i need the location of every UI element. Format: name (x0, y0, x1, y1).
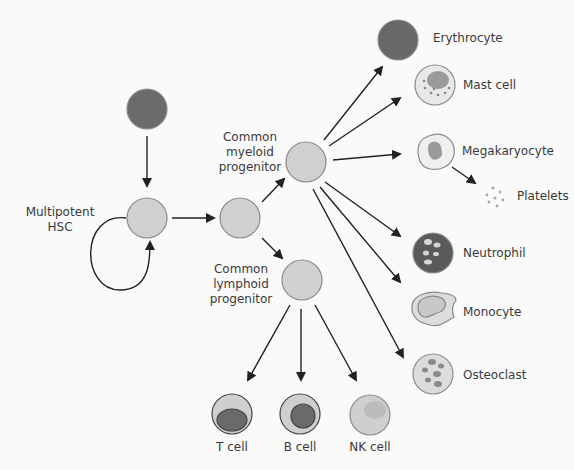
erythrocyte-label: Erythrocyte (433, 31, 503, 46)
t-cell (212, 394, 252, 434)
clp-label: Common lymphoid progenitor (205, 262, 277, 307)
mast-cell-label: Mast cell (463, 78, 516, 93)
nkcell-label: NK cell (340, 440, 400, 455)
arrow-to-osteoclast (313, 189, 403, 357)
cmp-cell (286, 142, 326, 182)
platelets (486, 186, 505, 207)
nk-cell (350, 395, 390, 435)
megakaryocyte-cell (418, 134, 454, 169)
cells (127, 20, 504, 435)
arrow-to-monocyte (320, 187, 400, 282)
lineage-graphic (0, 0, 574, 470)
bcell-label: B cell (274, 440, 326, 455)
diagram-canvas: Multipotent HSC Common myeloid progenito… (0, 0, 574, 470)
hsc-label: Multipotent HSC (15, 205, 105, 235)
tcell-label: T cell (206, 440, 258, 455)
clp-cell (282, 260, 322, 300)
mpp-cell (220, 198, 260, 238)
osteoclast-cell (413, 354, 453, 394)
neutrophil-cell (413, 233, 453, 273)
arrow-to-cmp (262, 179, 284, 202)
arrow-to-platelets (452, 167, 475, 183)
osteoclast-label: Osteoclast (463, 368, 526, 383)
arrow-to-mast (329, 98, 400, 146)
top-dark-cell (127, 89, 167, 129)
arrow-to-clp (262, 238, 282, 258)
platelets-label: Platelets (517, 189, 569, 204)
monocyte-cell (412, 292, 456, 325)
cmp-label: Common myeloid progenitor (215, 130, 285, 175)
arrow-to-tcell (248, 305, 290, 380)
megakaryocyte-label: Megakaryocyte (462, 144, 554, 159)
monocyte-label: Monocyte (463, 305, 521, 320)
b-cell (280, 394, 320, 434)
arrow-to-nkcell (315, 305, 356, 380)
hsc-cell (127, 198, 167, 238)
erythrocyte-cell (378, 20, 418, 60)
neutrophil-label: Neutrophil (463, 246, 526, 261)
mast-cell (415, 65, 455, 105)
arrow-to-neutrophil (325, 182, 400, 236)
arrow-to-megakaryocyte (333, 154, 400, 160)
